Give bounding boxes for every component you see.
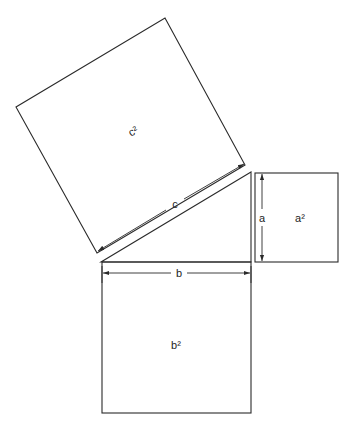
square-b (102, 262, 251, 413)
label-square-a: a² (295, 212, 305, 224)
right-triangle (101, 172, 251, 262)
diagram-canvas: c² c a a² b b² (0, 0, 359, 431)
dimension-arrow-c (98, 210, 166, 251)
pythagoras-diagram: c² c a a² b b² (0, 0, 359, 431)
label-square-c: c² (126, 123, 140, 138)
label-side-c: c (172, 198, 178, 210)
label-square-b: b² (171, 339, 181, 351)
label-side-b: b (176, 267, 182, 279)
label-side-a: a (259, 212, 266, 224)
